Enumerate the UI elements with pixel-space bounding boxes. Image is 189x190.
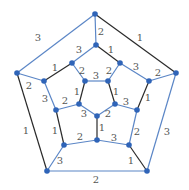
edge-label: 3 bbox=[57, 155, 63, 166]
edge-label: 3 bbox=[123, 96, 129, 107]
edge-label: 2 bbox=[77, 131, 83, 142]
vertex-P1 bbox=[105, 78, 111, 84]
edge-O1-MB bbox=[149, 73, 176, 81]
edge-label: 3 bbox=[111, 132, 117, 143]
vertex-MI bbox=[69, 60, 75, 66]
edge-label: 2 bbox=[155, 67, 161, 78]
edge-label: 2 bbox=[79, 65, 85, 76]
edge-label: 3 bbox=[42, 93, 48, 104]
edge-label: 1 bbox=[23, 125, 29, 136]
edge-label: 1 bbox=[99, 122, 105, 133]
edge-label: 3 bbox=[93, 70, 99, 81]
vertex-MF bbox=[61, 142, 67, 148]
vertex-P2 bbox=[112, 101, 118, 107]
edge-label: 1 bbox=[145, 92, 151, 103]
edge-label: 3 bbox=[133, 61, 139, 72]
vertex-O1 bbox=[173, 70, 179, 76]
vertex-MB bbox=[146, 78, 152, 84]
edge-label: 3 bbox=[164, 126, 170, 137]
edge-label: 1 bbox=[52, 62, 58, 73]
edge-label: 2 bbox=[98, 26, 104, 37]
vertex-O4 bbox=[14, 70, 20, 76]
vertex-MG bbox=[53, 107, 59, 113]
vertex-MA bbox=[117, 60, 123, 66]
vertex-O3 bbox=[44, 168, 50, 174]
edge-label: 2 bbox=[26, 80, 32, 91]
vertex-M0 bbox=[93, 42, 99, 48]
vertex-MH bbox=[41, 78, 47, 84]
edge-label: 1 bbox=[128, 155, 134, 166]
edge-label: 1 bbox=[137, 32, 143, 43]
edge-O0-M0 bbox=[95, 14, 96, 45]
edge-label: 2 bbox=[134, 126, 140, 137]
edge-O1-O2 bbox=[147, 73, 176, 171]
edge-label: 1 bbox=[108, 44, 114, 55]
edge-labels-layer: 313212223113123213132231231231 bbox=[23, 26, 170, 185]
edge-label: 1 bbox=[52, 125, 58, 136]
vertex-P4 bbox=[76, 101, 82, 107]
edge-label: 3 bbox=[76, 44, 82, 55]
vertex-O0 bbox=[92, 11, 98, 17]
vertex-MC bbox=[134, 107, 140, 113]
edge-label: 3 bbox=[35, 32, 41, 43]
edge-label: 1 bbox=[74, 86, 80, 97]
vertex-O2 bbox=[144, 168, 150, 174]
edge-label: 2 bbox=[93, 174, 99, 185]
vertex-ME bbox=[94, 137, 100, 143]
dodecahedral-graph-diagram: 313212223113123213132231231231 bbox=[0, 0, 189, 190]
edge-label: 2 bbox=[62, 95, 68, 106]
edge-label: 3 bbox=[81, 108, 87, 119]
vertex-P0 bbox=[82, 78, 88, 84]
vertex-MD bbox=[126, 142, 132, 148]
edge-label: 1 bbox=[113, 86, 119, 97]
edge-label: 2 bbox=[106, 65, 112, 76]
vertex-P3 bbox=[94, 113, 100, 119]
edge-label: 2 bbox=[105, 108, 111, 119]
